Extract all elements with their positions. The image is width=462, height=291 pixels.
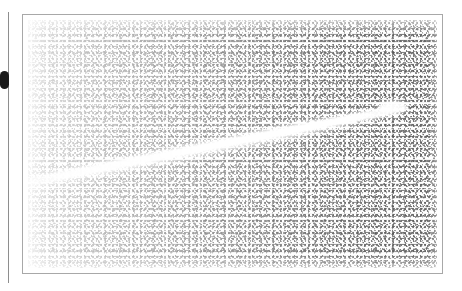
diagonal-streak-tip (378, 101, 408, 114)
scanned-page (0, 0, 462, 291)
speckle-layer-coarse (28, 20, 437, 268)
diagonal-bright-streak (28, 105, 400, 187)
diagonal-streak-glow (28, 102, 406, 191)
figure-frame (22, 14, 443, 274)
speckle-layer-fine (28, 20, 437, 268)
figure-plate (28, 20, 437, 268)
density-gradient-mask (28, 20, 437, 268)
scanline-grain-layer (28, 20, 437, 268)
half-disc-marker-icon (0, 71, 9, 89)
speckle-layer-medium (28, 20, 437, 268)
streak-group (28, 20, 437, 268)
plate-edge-fade (28, 20, 437, 268)
margin-rule (8, 12, 9, 283)
